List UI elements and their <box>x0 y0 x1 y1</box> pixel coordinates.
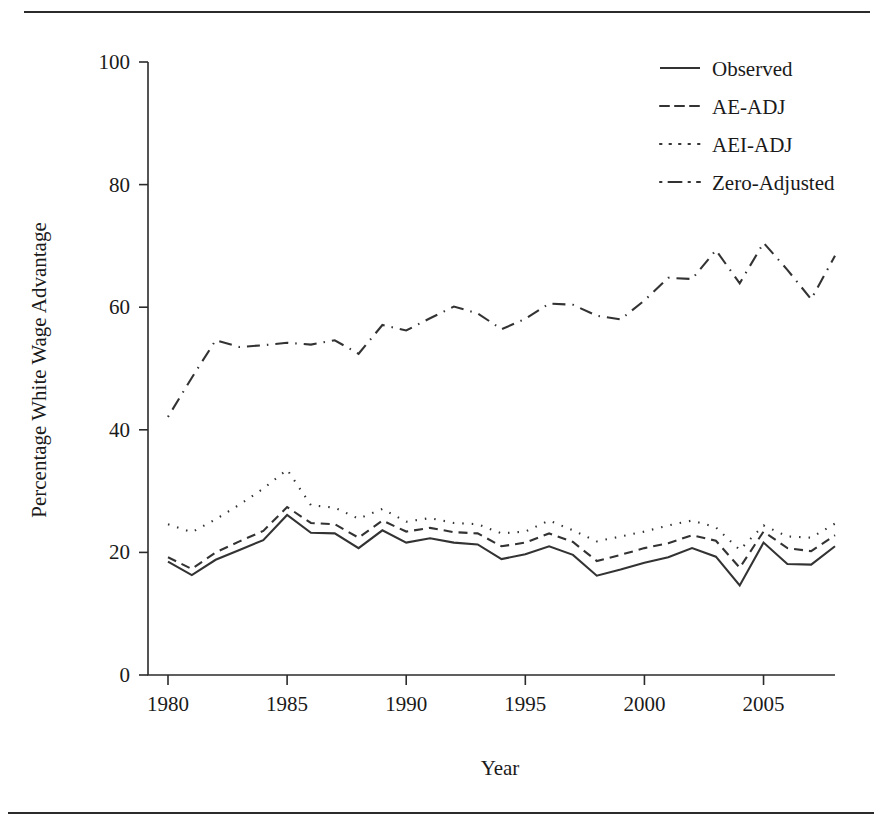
y-tick-label: 20 <box>109 540 130 564</box>
legend-label-aei-adj: AEI-ADJ <box>712 133 792 157</box>
legend-label-observed: Observed <box>712 57 793 81</box>
y-tick-label: 80 <box>109 173 130 197</box>
x-tick-label: 1980 <box>147 692 189 716</box>
legend-label-ae-adj: AE-ADJ <box>712 95 786 119</box>
y-tick-label: 40 <box>109 418 130 442</box>
data-series-group <box>168 243 835 586</box>
chart-legend: ObservedAE-ADJAEI-ADJZero-Adjusted <box>660 57 835 195</box>
x-axis-tick-labels: 198019851990199520002005 <box>147 692 785 716</box>
line-chart: 020406080100 198019851990199520002005 Ob… <box>0 0 881 835</box>
x-axis-title: Year <box>481 756 520 780</box>
x-tick-label: 1985 <box>266 692 308 716</box>
series-line-zero-adjusted <box>168 243 835 417</box>
x-axis-ticks <box>168 675 764 685</box>
y-tick-label: 100 <box>99 50 131 74</box>
x-tick-label: 2000 <box>623 692 665 716</box>
series-line-aei-adj <box>168 470 835 550</box>
series-line-observed <box>168 515 835 585</box>
y-axis-ticks <box>139 62 148 675</box>
y-axis-tick-labels: 020406080100 <box>99 50 131 687</box>
y-tick-label: 60 <box>109 295 130 319</box>
x-tick-label: 2005 <box>743 692 785 716</box>
x-tick-label: 1990 <box>385 692 427 716</box>
x-tick-label: 1995 <box>504 692 546 716</box>
figure-container: 020406080100 198019851990199520002005 Ob… <box>0 0 881 835</box>
legend-label-zero-adjusted: Zero-Adjusted <box>712 171 835 195</box>
y-tick-label: 0 <box>120 663 131 687</box>
y-axis-title: Percentage White Wage Advantage <box>27 222 51 518</box>
